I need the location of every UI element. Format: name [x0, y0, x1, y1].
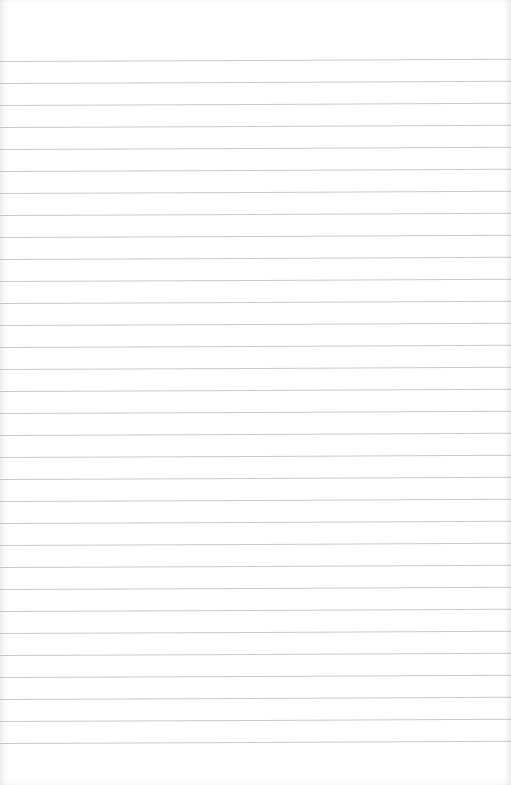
ruled-line — [0, 499, 511, 502]
ruled-line — [0, 323, 511, 326]
ruled-line — [0, 521, 511, 524]
ruled-line — [0, 125, 511, 128]
ruled-line — [0, 301, 511, 304]
lined-paper-sheet — [0, 0, 511, 785]
ruled-line — [0, 477, 511, 480]
ruled-line — [0, 389, 511, 392]
ruled-line — [0, 257, 511, 260]
ruled-line — [0, 103, 511, 106]
ruled-line — [0, 609, 511, 612]
ruled-line — [0, 543, 511, 546]
ruled-line — [0, 697, 511, 700]
ruled-line — [0, 81, 511, 84]
ruled-line — [0, 147, 511, 150]
ruled-line — [0, 433, 511, 436]
ruled-line — [0, 653, 511, 656]
ruled-line — [0, 191, 511, 194]
ruled-line — [0, 675, 511, 678]
ruled-line — [0, 631, 511, 634]
ruled-line — [0, 345, 511, 348]
ruled-line — [0, 279, 511, 282]
ruled-line — [0, 455, 511, 458]
ruled-line — [0, 565, 511, 568]
ruled-line — [0, 169, 511, 172]
ruled-line — [0, 741, 511, 744]
ruled-line — [0, 719, 511, 722]
ruled-line — [0, 367, 511, 370]
ruled-line — [0, 59, 511, 62]
ruled-line — [0, 411, 511, 414]
ruled-line — [0, 235, 511, 238]
ruled-line — [0, 587, 511, 590]
ruled-line — [0, 213, 511, 216]
